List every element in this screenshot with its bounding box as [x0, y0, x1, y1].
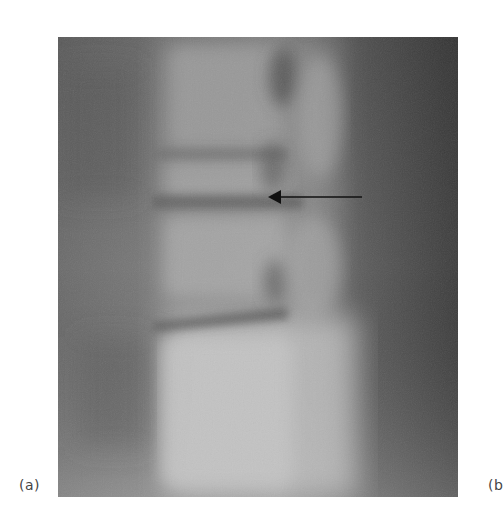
panel-label-b: (b [488, 477, 503, 493]
xray-illustration [58, 37, 458, 497]
panel-label-a: (a) [19, 477, 40, 493]
xray-image-panel-a [58, 37, 458, 497]
